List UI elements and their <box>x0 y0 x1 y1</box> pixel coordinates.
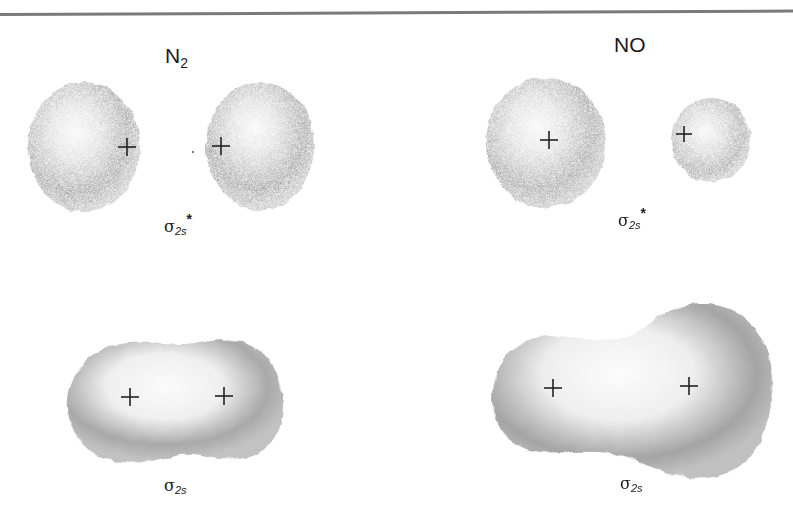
n2-sigma2s-star-label: σ2s* <box>164 211 192 237</box>
n2-sigma2s-orbital <box>68 340 283 462</box>
no-antibonding-left-lobe <box>486 78 606 208</box>
n2-column-title: N2 <box>165 44 188 71</box>
n2-sigma2s-star-orbital <box>28 82 314 212</box>
no-column-title: NO <box>614 33 646 57</box>
no-sigma2s-star-orbital <box>486 78 751 208</box>
n2-title-text: N <box>165 44 180 67</box>
no-sigma2s-orbital <box>492 304 773 478</box>
no-sigma2s-label: σ2s <box>620 474 643 494</box>
no-title-text: NO <box>614 33 646 56</box>
no-antibonding-right-lobe <box>671 98 751 182</box>
bond-midpoint-dot <box>192 151 194 153</box>
n2-sigma2s-label: σ2s <box>164 476 187 496</box>
n2-title-subscript: 2 <box>180 55 188 71</box>
orbital-diagram <box>0 0 793 516</box>
no-sigma2s-star-label: σ2s* <box>618 205 646 231</box>
